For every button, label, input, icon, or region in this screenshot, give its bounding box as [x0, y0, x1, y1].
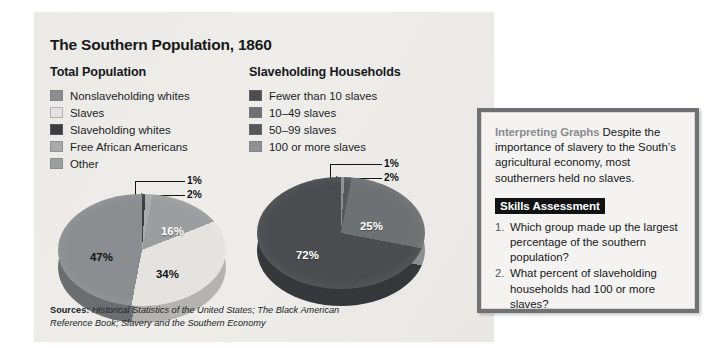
callout-label-1pct: 1% [384, 158, 399, 169]
legend-item-label: Slaves [70, 107, 104, 119]
legend-item: 100 or more slaves [249, 138, 484, 155]
sources-note: Sources: Historical Statistics of the Un… [50, 304, 380, 329]
chart-column-slaveholding-households: Slaveholding Households Fewer than 10 sl… [249, 65, 484, 322]
legend-item: Fewer than 10 slaves [249, 87, 484, 104]
callout-label-1pct: 1% [187, 175, 202, 186]
legend-item-label: 50–99 slaves [269, 124, 336, 136]
interpreting-graphs-label: Interpreting Graphs [495, 126, 599, 138]
legend-swatch-icon [50, 124, 63, 135]
skills-question-item: 1. Which group made up the largest perce… [495, 220, 681, 266]
skills-question-item: 2. What percent of slaveholding househol… [495, 266, 681, 312]
slice-label-47: 47% [90, 252, 113, 263]
chart-column-total-population: Total Population Nonslaveholding whites … [50, 65, 265, 322]
legend-item-label: Fewer than 10 slaves [269, 90, 377, 102]
legend-item-label: Nonslaveholding whites [70, 90, 190, 102]
skills-assessment-questions: 1. Which group made up the largest perce… [495, 220, 681, 312]
legend-item: 10–49 slaves [249, 104, 484, 121]
legend-swatch-icon [249, 141, 262, 152]
legend-slaveholding-households: Fewer than 10 slaves 10–49 slaves 50–99 … [249, 87, 484, 155]
pie-stage: 16% 34% 47% [58, 194, 226, 319]
legend-item-label: 100 or more slaves [269, 141, 366, 153]
column-heading-slaveholding-households: Slaveholding Households [249, 65, 484, 79]
pie-chart-slaveholding-households: 1% 2% 25% 72% [249, 172, 464, 322]
figure-title: The Southern Population, 1860 [50, 36, 272, 54]
legend-swatch-icon [249, 107, 262, 118]
legend-swatch-icon [249, 90, 262, 101]
pie-top-face [58, 194, 226, 306]
legend-item: Slaveholding whites [50, 121, 265, 138]
legend-item: Nonslaveholding whites [50, 87, 265, 104]
legend-item-label: Other [70, 158, 99, 170]
pie-chart-total-population: 1% 2% 16% 34% 47% [50, 172, 265, 322]
legend-swatch-icon [50, 158, 63, 169]
pie-top-face [257, 177, 425, 289]
legend-item-label: Slaveholding whites [70, 124, 171, 136]
legend-swatch-icon [249, 124, 262, 135]
legend-item: 50–99 slaves [249, 121, 484, 138]
slice-label-25: 25% [360, 221, 383, 232]
legend-item: Other [50, 155, 265, 172]
sources-text: Historical Statistics of the United Stat… [50, 305, 339, 328]
legend-item-label: 10–49 slaves [269, 107, 336, 119]
slice-label-34: 34% [156, 269, 179, 280]
skills-question-text: What percent of slaveholding households … [510, 266, 681, 312]
skills-question-number: 2. [495, 266, 510, 312]
interpreting-graphs-panel: Interpreting Graphs Despite the importan… [477, 108, 699, 313]
pie-stage: 25% 72% [257, 177, 425, 302]
column-heading-total-population: Total Population [50, 65, 265, 79]
figure-card: The Southern Population, 1860 Total Popu… [34, 12, 494, 342]
legend-item-label: Free African Americans [70, 141, 188, 153]
legend-total-population: Nonslaveholding whites Slaves Slaveholdi… [50, 87, 265, 172]
slice-label-72: 72% [296, 250, 319, 261]
callout-leader-line-1pct [135, 181, 185, 182]
interpreting-graphs-text: Interpreting Graphs Despite the importan… [495, 125, 681, 186]
legend-swatch-icon [50, 107, 63, 118]
skills-assessment-heading: Skills Assessment [495, 198, 605, 214]
skills-question-number: 1. [495, 220, 510, 266]
sources-label: Sources: [50, 305, 89, 315]
skills-question-text: Which group made up the largest percenta… [510, 220, 681, 266]
legend-item: Slaves [50, 104, 265, 121]
callout-leader-line-1pct [330, 164, 382, 165]
slice-label-16: 16% [161, 226, 184, 237]
legend-swatch-icon [50, 141, 63, 152]
interpreting-graphs-panel-inner: Interpreting Graphs Despite the importan… [481, 112, 695, 309]
legend-swatch-icon [50, 90, 63, 101]
legend-item: Free African Americans [50, 138, 265, 155]
